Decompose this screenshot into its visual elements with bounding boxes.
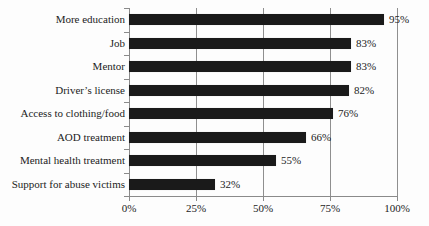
plot-area: 95%More education83%Job83%Mentor82%Drive… xyxy=(0,0,429,226)
data-bar xyxy=(129,132,306,143)
data-bar xyxy=(129,179,215,190)
x-axis-line xyxy=(124,196,398,197)
gridline-100 xyxy=(397,8,398,196)
category-label: Mentor xyxy=(0,55,125,79)
data-bar xyxy=(129,38,351,49)
category-label: Access to clothing/food xyxy=(0,102,125,126)
data-bar xyxy=(129,14,384,25)
data-bar xyxy=(129,85,349,96)
x-axis-label: 50% xyxy=(241,202,285,214)
category-label: Driver’s license xyxy=(0,79,125,103)
gridline-50 xyxy=(263,8,264,196)
value-label: 82% xyxy=(354,79,374,103)
x-axis-tick xyxy=(397,197,398,201)
category-label: Support for abuse victims xyxy=(0,173,125,197)
x-axis-tick xyxy=(330,197,331,201)
value-label: 83% xyxy=(356,55,376,79)
value-label: 66% xyxy=(311,126,331,150)
category-label: AOD treatment xyxy=(0,126,125,150)
bar-chart: 95%More education83%Job83%Mentor82%Drive… xyxy=(0,0,429,226)
x-axis-tick xyxy=(129,197,130,201)
gridline-25 xyxy=(196,8,197,196)
data-bar xyxy=(129,108,333,119)
data-bar xyxy=(129,155,276,166)
value-label: 32% xyxy=(220,173,240,197)
category-label: Job xyxy=(0,32,125,56)
data-bar xyxy=(129,61,351,72)
x-axis-label: 75% xyxy=(308,202,352,214)
category-label: More education xyxy=(0,8,125,32)
value-label: 83% xyxy=(356,32,376,56)
value-label: 76% xyxy=(338,102,358,126)
value-label: 55% xyxy=(281,149,301,173)
x-axis-label: 0% xyxy=(107,202,151,214)
x-axis-tick xyxy=(263,197,264,201)
value-label: 95% xyxy=(389,8,409,32)
x-axis-tick xyxy=(196,197,197,201)
gridline-75 xyxy=(330,8,331,196)
x-axis-label: 25% xyxy=(174,202,218,214)
x-axis-label: 100% xyxy=(375,202,419,214)
y-axis-line xyxy=(129,8,130,196)
category-label: Mental health treatment xyxy=(0,149,125,173)
